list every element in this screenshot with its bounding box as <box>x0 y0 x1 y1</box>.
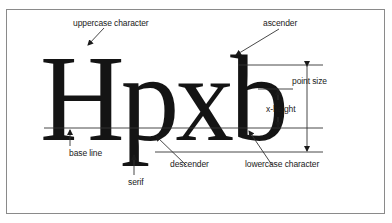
uppercase-pointer <box>88 28 104 45</box>
label-lowercase-character: lowercase character <box>245 160 319 169</box>
label-ascender: ascender <box>263 19 297 28</box>
ascender-pointer <box>236 29 279 55</box>
label-base-line: base line <box>69 149 102 158</box>
label-point-size: point size <box>292 77 327 86</box>
label-serif: serif <box>128 178 144 187</box>
label-x-height: x-height <box>266 105 295 114</box>
label-descender: descender <box>170 160 209 169</box>
guide-lines <box>0 0 392 223</box>
label-uppercase-character: uppercase character <box>73 19 149 28</box>
